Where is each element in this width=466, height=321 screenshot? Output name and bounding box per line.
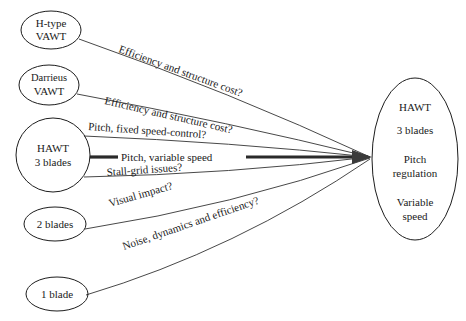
target-label-line2: 3 blades xyxy=(397,124,433,136)
target-label-line3: Pitch xyxy=(404,153,427,165)
target-node-hawt[interactable]: HAWT 3 blades Pitch regulation Variable … xyxy=(372,78,458,240)
node-label-darrieus-line1: Darrieus xyxy=(31,72,67,83)
edge-label-noise-dynamics: Noise, dynamics and efficiency? xyxy=(121,194,261,252)
source-node-h-type-vawt[interactable]: H-type VAWT xyxy=(21,11,81,49)
target-label-line4: regulation xyxy=(393,167,438,179)
source-node-1-blade[interactable]: 1 blade xyxy=(26,277,88,311)
arrowhead-icon xyxy=(352,150,372,164)
node-label-hawt3-line1: HAWT xyxy=(37,142,69,154)
target-label-line5: Variable xyxy=(397,196,434,208)
edge-label-h-type: Efficiency and structure cost? xyxy=(117,43,244,99)
source-node-2-blades[interactable]: 2 blades xyxy=(24,207,86,241)
node-label-h-type-line1: H-type xyxy=(36,17,67,29)
source-node-hawt-3-blades[interactable]: HAWT 3 blades xyxy=(16,118,90,192)
node-label-darrieus-line2: VAWT xyxy=(34,85,65,97)
node-label-h-type-line2: VAWT xyxy=(36,30,67,42)
source-node-darrieus-vawt[interactable]: Darrieus VAWT xyxy=(19,65,79,105)
node-label-1-blade: 1 blade xyxy=(41,288,73,300)
target-label-line1: HAWT xyxy=(399,101,431,113)
node-label-hawt3-line2: 3 blades xyxy=(35,156,71,168)
concept-diagram: Efficiency and structure cost? Efficienc… xyxy=(0,0,466,321)
node-label-2-blades: 2 blades xyxy=(37,218,73,230)
edge-label-visual-impact: Visual impact? xyxy=(107,179,174,209)
target-label-line6: speed xyxy=(402,210,428,222)
edge-noise-dynamics-line xyxy=(86,159,370,295)
diagram-canvas: Efficiency and structure cost? Efficienc… xyxy=(0,0,466,321)
edge-label-group: Efficiency and structure cost? Efficienc… xyxy=(88,43,260,252)
